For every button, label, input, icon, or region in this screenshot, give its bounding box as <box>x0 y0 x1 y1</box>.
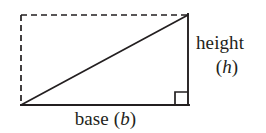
triangle-diagram-figure: height (h) base (b) <box>0 0 266 133</box>
triangle-hypotenuse-line <box>21 15 188 105</box>
right-angle-marker-icon <box>175 92 188 105</box>
base-variable-symbol: b <box>120 108 130 129</box>
height-label: height <box>196 33 244 53</box>
height-variable-label: (h) <box>196 57 258 77</box>
height-variable-symbol: h <box>222 56 232 77</box>
base-label-text: base <box>75 108 109 129</box>
height-paren-close: ) <box>232 56 238 77</box>
base-paren-close: ) <box>130 108 136 129</box>
height-label-text: height <box>196 32 244 53</box>
base-label: base (b) <box>22 109 189 129</box>
